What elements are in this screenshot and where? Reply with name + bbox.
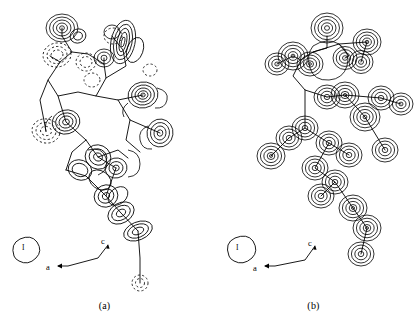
axis-arrows-b (264, 245, 317, 269)
figure-container: c a I (a) (0, 0, 418, 327)
panel-caption-a: (a) (0, 300, 209, 311)
panel-b: c a I (b) (209, 0, 418, 327)
axis-arrows-a (57, 244, 110, 269)
marker-circle-b (227, 236, 255, 263)
axis-polyline-b (275, 246, 315, 266)
marker-circle-a (13, 237, 40, 263)
axis-label-a-b: a (253, 263, 257, 273)
panel-a: c a I (a) (0, 0, 209, 327)
axis-label-c-b: c (308, 238, 312, 248)
reference-marker-b (227, 236, 255, 263)
axis-polyline-a (68, 245, 108, 266)
reference-marker-a (13, 237, 40, 263)
panel-a-axes (0, 0, 209, 327)
axis-a-arrowhead (57, 263, 62, 268)
panel-b-axes (209, 0, 418, 327)
axis-label-c-a: c (101, 236, 105, 246)
marker-label-a: I (22, 243, 25, 252)
panel-caption-b: (b) (209, 300, 418, 311)
axis-a-arrowhead-b (264, 263, 269, 268)
axis-label-a-a: a (46, 262, 50, 272)
marker-label-b: I (236, 243, 239, 252)
